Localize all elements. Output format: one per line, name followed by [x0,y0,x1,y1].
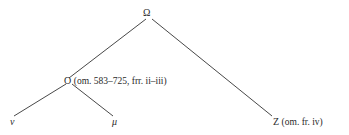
edge-omega-z [152,19,272,116]
node-mu: μ [112,117,117,127]
node-nu: ν [10,117,14,127]
node-z-note: (om. fr. iv) [282,117,323,127]
node-o-note: (om. 583–725, frr. ii–iii) [74,76,167,86]
root-node-omega: Ω [143,8,150,18]
edge-o-mu [72,84,113,116]
node-o: O (om. 583–725, frr. ii–iii) [64,76,167,87]
stemma-edges [0,0,349,135]
node-z-siglum: Z [273,116,279,127]
node-z: Z (om. fr. iv) [273,117,323,128]
edge-o-nu [14,84,66,116]
node-o-siglum: O [64,75,71,86]
edge-omega-o [69,19,146,78]
